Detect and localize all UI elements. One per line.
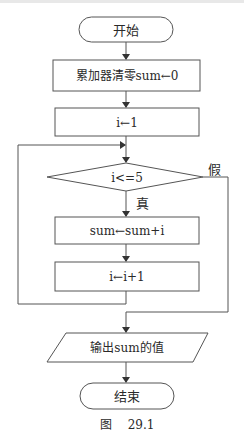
caption-number: 29.1 — [128, 418, 155, 432]
end-label: 结束 — [114, 389, 140, 404]
init-i-label: i←1 — [116, 116, 138, 130]
increment-label: i←i+1 — [109, 270, 144, 284]
flowchart-canvas: 开始 累加器清零sum←0 i←1 i<=5 假 真 sum←sum+i i←i… — [0, 0, 244, 444]
caption-prefix: 图 — [100, 418, 112, 432]
accumulate-label: sum←sum+i — [90, 224, 165, 238]
true-branch-label: 真 — [136, 196, 149, 211]
false-branch-label: 假 — [208, 162, 221, 177]
start-label: 开始 — [113, 23, 139, 38]
condition-label: i<=5 — [111, 171, 143, 185]
output-label: 输出sum的值 — [90, 340, 163, 355]
cutoff-text-strip — [0, 0, 244, 3]
init-sum-label: 累加器清零sum←0 — [76, 69, 179, 83]
